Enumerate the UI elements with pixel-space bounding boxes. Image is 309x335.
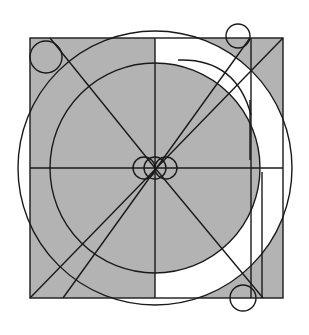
- line-work: [18, 24, 292, 311]
- geometric-diagram: [0, 0, 309, 335]
